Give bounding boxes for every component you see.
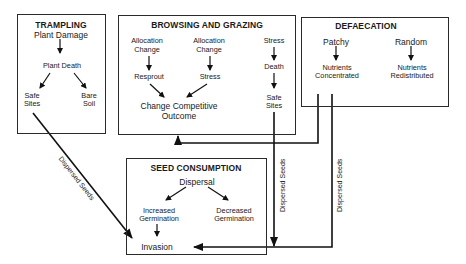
plant-damage-node: Plant Damage	[34, 30, 88, 40]
defaecation-title: DEFAECATION	[335, 21, 396, 31]
change-competitive-outcome-line1: Change Competitive	[140, 101, 217, 111]
nutrients-redistributed-line2: Redistributed	[391, 72, 434, 81]
browsing-grazing-title: BROWSING AND GRAZING	[151, 20, 263, 30]
stress-node-mid: Stress	[200, 73, 221, 82]
death-node: Death	[264, 63, 283, 72]
dispersal-node: Dispersal	[179, 177, 214, 187]
allocation-change-1-line2: Change	[134, 46, 160, 55]
invasion-node: Invasion	[141, 242, 173, 252]
change-competitive-outcome-line2: Outcome	[162, 111, 197, 121]
random-node: Random	[395, 37, 427, 47]
dispersed-seeds-label-browsing: Dispersed Seeds	[279, 159, 286, 212]
trampling-title: TRAMPLING	[35, 20, 86, 30]
dispersed-seeds-label-defaecation: Dispersed Seeds	[336, 159, 343, 212]
plant-death-node: Plant Death	[43, 62, 81, 71]
safe-sites-browsing-line2: Sites	[266, 102, 282, 111]
bare-soil-node-line2: Soil	[83, 100, 95, 109]
decreased-germination-line2: Germination	[214, 215, 254, 224]
increased-germination-line2: Germination	[139, 215, 179, 224]
resprout-node: Resprout	[134, 73, 164, 82]
nutrients-concentrated-line2: Concentrated	[315, 72, 359, 81]
allocation-change-2-line2: Change	[196, 46, 222, 55]
safe-sites-node-line2: Sites	[24, 100, 40, 109]
stress-node-right: Stress	[264, 37, 285, 46]
seed-consumption-title: SEED CONSUMPTION	[151, 163, 242, 173]
patchy-node: Patchy	[323, 37, 349, 47]
